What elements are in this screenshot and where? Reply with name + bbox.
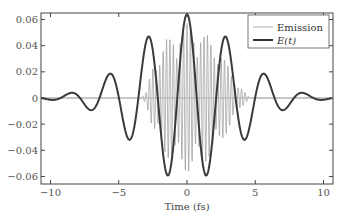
y-tick-label: −0.02 — [7, 119, 38, 130]
legend-label-emission: Emission — [277, 22, 323, 33]
legend: Emission E(t) — [248, 15, 329, 48]
y-tick-label: −0.04 — [7, 145, 38, 156]
y-tick-label: 0 — [32, 93, 38, 104]
y-tick-label: 0.02 — [16, 66, 38, 77]
chart: 0.060.040.020−0.02−0.04−0.06 −10−50510 T… — [0, 0, 345, 222]
y-tick-label: −0.06 — [7, 171, 38, 182]
x-tick-label: −5 — [111, 187, 126, 198]
x-tick-label: 5 — [252, 187, 258, 198]
x-tick-label: −10 — [40, 187, 61, 198]
legend-label-e: E(t) — [276, 35, 296, 46]
y-tick-label: 0.06 — [16, 14, 38, 25]
x-axis-label: Time (fs) — [164, 201, 209, 212]
y-tick-label: 0.04 — [16, 40, 38, 51]
x-tick-label: 10 — [317, 187, 330, 198]
x-tick-label: 0 — [184, 187, 190, 198]
